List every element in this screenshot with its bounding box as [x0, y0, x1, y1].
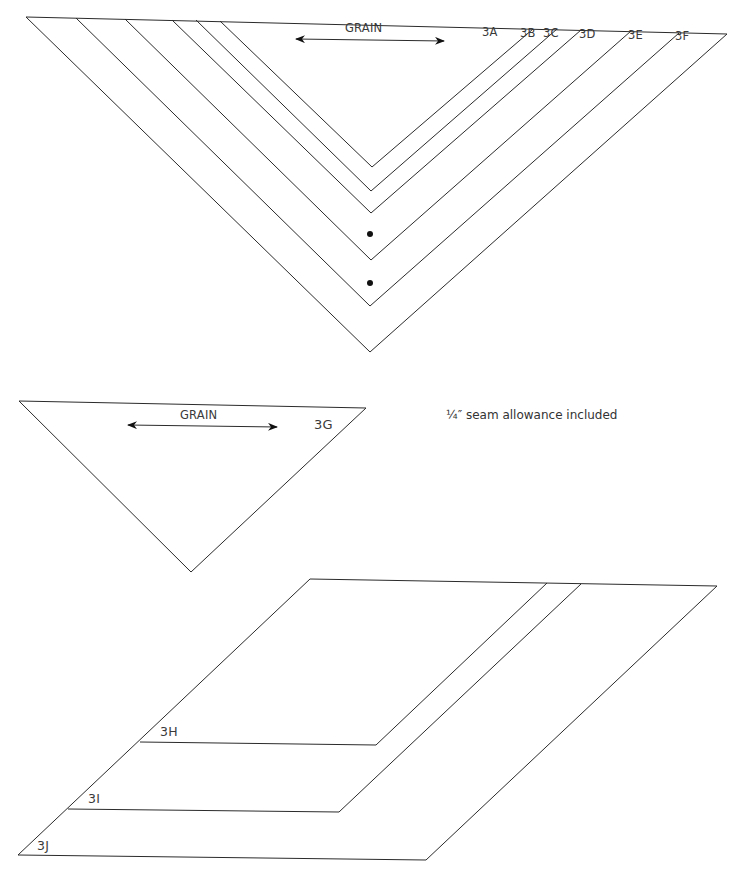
piece-3j-outline [18, 586, 717, 860]
match-point-dot-icon [367, 231, 373, 237]
piece-label-3j: 3J [37, 840, 49, 853]
piece-3b-outline [196, 20, 557, 191]
pattern-sheet [0, 0, 739, 885]
grain-arrow-icon [128, 425, 277, 427]
piece-3i-outline [68, 584, 581, 812]
top-triangle-group [26, 17, 727, 352]
bottom-parallelogram-group [18, 579, 717, 860]
piece-3f-outline [26, 17, 727, 352]
piece-3a-outline [220, 21, 533, 167]
piece-label-3d: 3D [579, 29, 596, 41]
grain-label: GRAIN [345, 23, 382, 35]
piece-label-3g: 3G [314, 418, 333, 431]
piece-label-3c: 3C [543, 28, 559, 40]
piece-label-3a: 3A [482, 27, 498, 39]
grain-arrow-icon [296, 39, 444, 41]
piece-label-3h: 3H [160, 726, 178, 739]
piece-3d-outline [125, 19, 631, 260]
parallelogram-top-edge [310, 579, 717, 586]
piece-3h-outline [140, 583, 547, 745]
piece-label-3b: 3B [520, 28, 536, 40]
parallelogram-left-edge [18, 579, 310, 855]
match-point-dot-icon [367, 280, 373, 286]
piece-3c-outline [172, 20, 581, 213]
grain-label: GRAIN [180, 410, 217, 422]
seam-allowance-note: ¼″ seam allowance included [446, 409, 617, 421]
piece-label-3e: 3E [628, 30, 643, 42]
piece-label-3i: 3I [88, 793, 100, 806]
piece-label-3f: 3F [675, 31, 689, 43]
